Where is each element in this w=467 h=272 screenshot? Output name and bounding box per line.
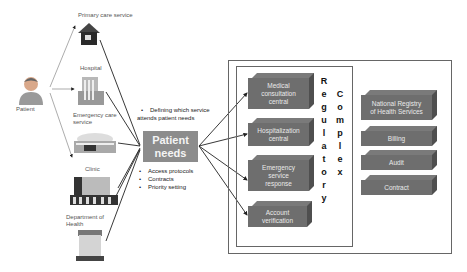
hospital-label: Hospital [80, 65, 102, 71]
department-building-icon [76, 230, 104, 262]
emergency-service-response-box: Emergencyserviceresponse [248, 155, 314, 191]
center-top-bullets: Defining which service attends patient n… [137, 106, 210, 122]
clinic-label: Clinic [85, 166, 100, 172]
hospital-building-icon [78, 73, 104, 105]
center-bottom-bullets: Access protocols Contracts Priority sett… [139, 167, 193, 191]
patient-needs-box: Patient needs [143, 131, 198, 162]
patient-avatar-icon [18, 75, 44, 105]
account-verification-box: Accountverification [248, 201, 312, 227]
clinic-building-icon [70, 175, 118, 205]
national-registry-box: National Registryof Health Services [361, 90, 437, 120]
complex-vertical-label: Complex [335, 88, 345, 179]
audit-box: Audit [361, 150, 437, 170]
emergency-building-icon [72, 133, 118, 155]
department-label: Department of Health [66, 214, 104, 228]
contract-box: Contract [361, 175, 437, 195]
hospitalization-central-box: Hospitalizationcentral [248, 118, 314, 146]
patient-label: Patient [16, 106, 35, 112]
regulatory-vertical-label: Regulatory [319, 75, 329, 205]
emergency-care-label: Emergency care service [73, 112, 117, 126]
billing-box: Billing [361, 126, 437, 146]
primary-care-label: Primary care service [78, 12, 133, 18]
house-icon [76, 22, 102, 46]
medical-consultation-box: Medicalconsultationcentral [248, 73, 314, 109]
